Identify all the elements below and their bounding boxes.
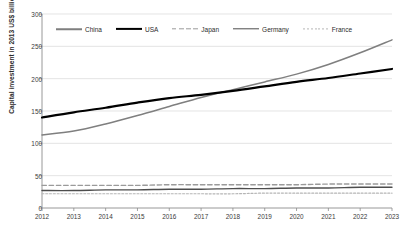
x-tick-label: 2012 (35, 213, 49, 220)
legend-label: China (85, 26, 102, 33)
x-tick-label: 2016 (162, 213, 176, 220)
legend-label: USA (145, 26, 158, 33)
y-tick-label: 200 (16, 75, 42, 82)
x-tick-label: 2020 (289, 213, 303, 220)
legend-label: France (332, 26, 352, 33)
chart-legend: ChinaUSAJapanGermanyFrance (56, 22, 356, 36)
legend-line-icon (116, 26, 142, 33)
legend-line-icon (233, 26, 259, 33)
x-tick-label: 2013 (67, 213, 81, 220)
x-tick-label: 2021 (321, 213, 335, 220)
y-tick-label: 100 (16, 140, 42, 147)
x-tick-label: 2022 (353, 213, 367, 220)
y-axis-tick-labels: 050100150200250300 (16, 0, 42, 239)
x-tick-label: 2015 (130, 213, 144, 220)
x-tick-label: 2023 (385, 213, 399, 220)
series-line-france (42, 193, 392, 194)
legend-line-icon (56, 26, 82, 33)
legend-line-icon (172, 26, 198, 33)
gridlines (42, 14, 392, 208)
x-tick-label: 2017 (194, 213, 208, 220)
x-tick-label: 2019 (258, 213, 272, 220)
y-axis-title: Capital investment in 2013 US$ billion (8, 0, 15, 129)
y-tick-label: 0 (16, 205, 42, 212)
x-tick-label: 2018 (226, 213, 240, 220)
series-line-usa (42, 69, 392, 117)
series-line-germany (42, 187, 392, 190)
line-chart: Capital investment in 2013 US$ billion 0… (0, 0, 400, 239)
y-tick-label: 150 (16, 108, 42, 115)
series-line-china (42, 40, 392, 135)
legend-label: Japan (201, 26, 219, 33)
x-axis-tick-labels: 2012201320142015201620172018201920202021… (0, 213, 400, 227)
legend-item-usa[interactable]: USA (116, 26, 158, 33)
legend-item-japan[interactable]: Japan (172, 26, 219, 33)
legend-item-france[interactable]: France (303, 26, 352, 33)
legend-item-germany[interactable]: Germany (233, 26, 289, 33)
y-tick-label: 50 (16, 172, 42, 179)
y-tick-label: 250 (16, 43, 42, 50)
data-series (42, 40, 392, 194)
legend-label: Germany (262, 26, 289, 33)
legend-line-icon (303, 26, 329, 33)
legend-item-china[interactable]: China (56, 26, 102, 33)
series-line-japan (42, 184, 392, 185)
x-tick-label: 2014 (99, 213, 113, 220)
y-tick-label: 300 (16, 11, 42, 18)
